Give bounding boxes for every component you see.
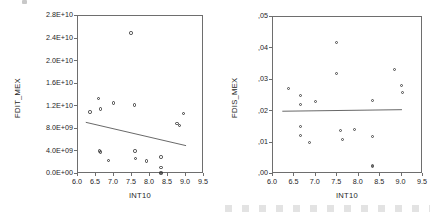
x-tick-mark bbox=[185, 173, 186, 176]
y-tick-label: 4.0E+09 bbox=[29, 147, 73, 154]
x-tick-mark bbox=[293, 173, 294, 176]
y-tick-mark bbox=[74, 38, 77, 39]
fit-line-left bbox=[78, 16, 202, 172]
y-tick-mark bbox=[74, 105, 77, 106]
x-tick-mark bbox=[203, 173, 204, 176]
x-tick-label: 9.5 bbox=[191, 178, 215, 185]
y-tick-mark bbox=[269, 16, 272, 17]
x-tick-label: 8.0 bbox=[346, 178, 370, 185]
x-tick-label: 9.0 bbox=[389, 178, 413, 185]
y-tick-mark bbox=[74, 83, 77, 84]
y-tick-label: ,00 bbox=[224, 169, 268, 176]
y-tick-mark bbox=[269, 47, 272, 48]
y-tick-label: 2.8E+10 bbox=[29, 11, 73, 18]
x-tick-mark bbox=[336, 173, 337, 176]
data-point bbox=[159, 172, 162, 175]
y-tick-mark bbox=[269, 142, 272, 143]
y-tick-mark bbox=[269, 79, 272, 80]
fit-line-right bbox=[273, 17, 421, 172]
x-axis-title-right: INT10 bbox=[272, 192, 422, 200]
y-tick-label: ,04 bbox=[224, 44, 268, 51]
y-tick-label: 1.2E+10 bbox=[29, 102, 73, 109]
x-tick-label: 9.5 bbox=[410, 178, 433, 185]
y-tick-label: 8.0E+09 bbox=[29, 124, 73, 131]
y-tick-label: ,05 bbox=[224, 12, 268, 19]
page-scan-artifact-bottom bbox=[225, 205, 430, 212]
x-tick-label: 8.5 bbox=[367, 178, 391, 185]
x-tick-mark bbox=[272, 173, 273, 176]
y-tick-mark bbox=[269, 110, 272, 111]
x-tick-mark bbox=[131, 173, 132, 176]
scatter-chart-fdis-mex: ,00,01,02,03,04,05 6.06.57.07.58.08.59.0… bbox=[216, 0, 433, 215]
x-tick-mark bbox=[113, 173, 114, 176]
plot-area-right bbox=[272, 16, 422, 173]
y-tick-mark bbox=[74, 60, 77, 61]
y-tick-label: 2.4E+10 bbox=[29, 34, 73, 41]
x-tick-label: 6.0 bbox=[260, 178, 284, 185]
y-tick-label: 2.0E+10 bbox=[29, 57, 73, 64]
x-tick-mark bbox=[379, 173, 380, 176]
x-tick-mark bbox=[77, 173, 78, 176]
x-tick-label: 7.5 bbox=[324, 178, 348, 185]
x-tick-mark bbox=[149, 173, 150, 176]
y-axis-title-right: FDIS_MEX bbox=[231, 78, 239, 118]
y-tick-label: 0.0E+00 bbox=[29, 169, 73, 176]
x-tick-label: 7.0 bbox=[303, 178, 327, 185]
y-tick-label: ,01 bbox=[224, 138, 268, 145]
y-tick-mark bbox=[74, 150, 77, 151]
x-tick-label: 6.5 bbox=[281, 178, 305, 185]
x-tick-mark bbox=[422, 173, 423, 176]
y-tick-mark bbox=[74, 128, 77, 129]
figure-page: 0.0E+004.0E+098.0E+091.2E+101.6E+102.0E+… bbox=[0, 0, 433, 215]
scatter-chart-fdit-mex: 0.0E+004.0E+098.0E+091.2E+101.6E+102.0E+… bbox=[0, 0, 216, 215]
x-axis-title-left: INT10 bbox=[77, 192, 203, 200]
x-tick-mark bbox=[95, 173, 96, 176]
x-tick-mark bbox=[401, 173, 402, 176]
x-tick-mark bbox=[358, 173, 359, 176]
y-tick-label: 1.6E+10 bbox=[29, 79, 73, 86]
y-axis-title-left: FDIT_MEX bbox=[14, 78, 22, 118]
x-tick-mark bbox=[315, 173, 316, 176]
y-tick-mark bbox=[74, 15, 77, 16]
plot-area-left bbox=[77, 15, 203, 173]
x-tick-mark bbox=[167, 173, 168, 176]
